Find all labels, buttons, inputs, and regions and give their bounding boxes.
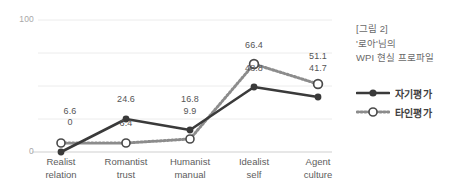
x-axis-label-realist-line1: Realist [46, 156, 75, 167]
legend-label-self-evaluation: 자기평가 [395, 86, 432, 101]
legend-marker-dotted-line-icon [356, 106, 390, 118]
data-label-idealist-other: 66.4 [234, 40, 274, 50]
legend-title-line3: WPI 현실 프로파일 [356, 51, 460, 66]
wpi-profile-chart: 100 0 6.6 0 24.6 6.4 16.8 9.9 66.4 48.8 … [0, 0, 460, 192]
legend-entries: 자기평가 타인평가 [356, 84, 460, 122]
x-axis-label-agent-line1: Agent [306, 156, 331, 167]
data-label-humanist-self: 16.8 [170, 94, 210, 104]
x-axis-label-agent-line2: culture [280, 169, 356, 182]
x-axis-label-idealist-line1: Idealist [239, 156, 269, 167]
data-label-humanist-other: 9.9 [170, 106, 210, 116]
legend-item-self-evaluation[interactable]: 자기평가 [356, 84, 460, 103]
data-label-agent-other: 51.1 [298, 51, 338, 61]
legend-title-block: [그림 2] '로아'님의 WPI 현실 프로파일 [356, 22, 460, 66]
x-axis-label-humanist-line1: Humanist [170, 156, 210, 167]
gridlines [38, 20, 332, 119]
chart-legend: [그림 2] '로아'님의 WPI 현실 프로파일 자기평가 타인평가 [356, 22, 460, 122]
legend-item-other-evaluation[interactable]: 타인평가 [356, 103, 460, 122]
x-axis-label-romantist-line1: Romantist [105, 156, 148, 167]
legend-title-line1: [그림 2] [356, 22, 460, 37]
x-axis-label-agent: Agent culture [280, 156, 356, 181]
data-label-realist-self: 0 [50, 117, 90, 127]
y-axis-tick-0: 0 [8, 146, 34, 156]
plot-area: 100 0 6.6 0 24.6 6.4 16.8 9.9 66.4 48.8 … [0, 0, 340, 192]
data-label-agent-self: 41.7 [298, 63, 338, 73]
legend-title-line2: '로아'님의 [356, 37, 460, 52]
data-label-romantist-self: 24.6 [106, 94, 146, 104]
data-label-realist-other: 6.6 [50, 106, 90, 116]
legend-marker-solid-line-icon [356, 87, 390, 99]
legend-label-other-evaluation: 타인평가 [395, 105, 432, 120]
data-label-romantist-other: 6.4 [106, 118, 146, 128]
y-axis-tick-100: 100 [8, 14, 34, 24]
data-label-idealist-self: 48.8 [234, 63, 274, 73]
